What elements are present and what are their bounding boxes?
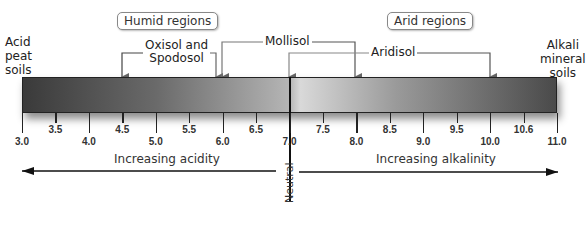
minor-tick (256, 113, 257, 123)
oxisol-spodosol-label: Oxisol and Spodosol (143, 39, 210, 65)
minor-tick-label: 6.5 (249, 124, 263, 135)
increasing-alkalinity-caption: Increasing alkalinity (376, 152, 496, 166)
major-tick-label: 7.0 (283, 136, 297, 147)
minor-tick (122, 113, 123, 123)
minor-tick-label: 5.5 (182, 124, 196, 135)
minor-tick-label: 3.5 (48, 124, 62, 135)
major-tick (290, 113, 291, 133)
major-tick-label: 6.0 (216, 136, 230, 147)
oxisol-label-line2: Spodosol (145, 52, 208, 65)
neutral-label: Neutral (283, 162, 296, 203)
minor-tick-label: 4.5 (115, 124, 129, 135)
major-tick-label: 11.0 (548, 136, 567, 147)
minor-tick-label: 10.6 (514, 124, 533, 135)
mollisol-label: Mollisol (263, 35, 312, 48)
minor-tick (189, 113, 190, 123)
minor-tick (390, 113, 391, 123)
major-tick-label: 8.0 (349, 136, 363, 147)
minor-tick (524, 113, 525, 123)
minor-tick-label: 8.5 (383, 124, 397, 135)
major-tick (356, 113, 357, 133)
increasing-acidity-caption: Increasing acidity (114, 152, 220, 166)
major-tick-label: 4.0 (82, 136, 96, 147)
major-tick (557, 113, 558, 133)
major-tick (89, 113, 90, 133)
minor-tick-label: 9.5 (450, 124, 464, 135)
aridisol-label: Aridisol (369, 46, 417, 59)
minor-tick (323, 113, 324, 123)
major-tick-label: 3.0 (15, 136, 29, 147)
major-tick (156, 113, 157, 133)
major-tick (22, 113, 23, 133)
major-tick (423, 113, 424, 133)
major-tick-label: 10.0 (480, 136, 499, 147)
minor-tick-label: 7.5 (316, 124, 330, 135)
major-tick-label: 9.0 (416, 136, 430, 147)
minor-tick (55, 113, 56, 123)
major-tick (223, 113, 224, 133)
minor-tick (457, 113, 458, 123)
major-tick-label: 5.0 (149, 136, 163, 147)
major-tick (490, 113, 491, 133)
